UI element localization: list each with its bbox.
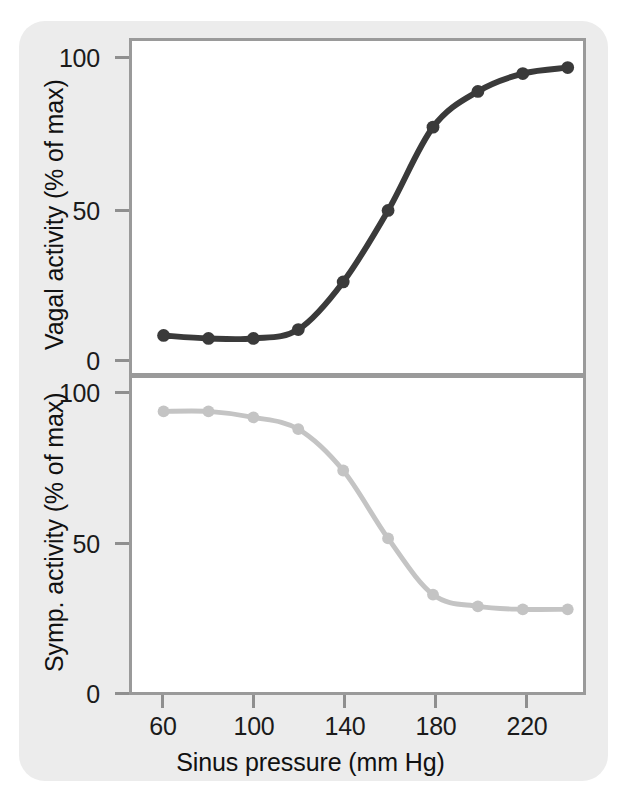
- ytick-dash-vagal-50: [115, 209, 129, 212]
- y-axis-label-symp: Symp. activity (% of max): [40, 393, 69, 673]
- data-point-marker: [337, 465, 349, 477]
- xtick-label-140: 140: [305, 712, 385, 741]
- data-point-marker: [516, 67, 529, 80]
- data-point-marker: [561, 61, 574, 74]
- xtick-label-220: 220: [487, 712, 567, 741]
- ytick-dash-symp-100: [115, 391, 129, 394]
- xtick-mark-60: [161, 695, 164, 708]
- data-point-marker: [247, 332, 260, 345]
- data-point-marker: [203, 406, 215, 418]
- data-point-marker: [382, 204, 395, 217]
- xtick-mark-140: [343, 695, 346, 708]
- ytick-dash-symp-50: [115, 542, 129, 545]
- data-point-marker: [337, 276, 350, 289]
- ytick-label-vagal-0: 0: [10, 347, 100, 376]
- data-point-marker: [427, 121, 440, 134]
- data-point-marker: [517, 603, 529, 615]
- ytick-dash-symp-0: [115, 692, 129, 695]
- vagal-activity-series-svg: [132, 41, 583, 373]
- xtick-mark-220: [525, 695, 528, 708]
- xtick-label-100: 100: [214, 712, 294, 741]
- sympathetic-activity-plot-panel: [129, 375, 586, 695]
- ytick-label-vagal-100: 100: [10, 44, 100, 73]
- data-point-marker: [292, 323, 305, 336]
- series-line: [164, 68, 568, 340]
- ytick-label-symp-0: 0: [10, 680, 100, 709]
- ytick-dash-vagal-100: [115, 56, 129, 59]
- data-point-marker: [382, 533, 394, 545]
- y-axis-label-vagal: Vagal activity (% of max): [40, 79, 69, 350]
- data-point-marker: [472, 600, 484, 612]
- data-point-marker: [471, 85, 484, 98]
- xtick-mark-180: [434, 695, 437, 708]
- ytick-dash-vagal-0: [115, 359, 129, 362]
- vagal-activity-plot-panel: [129, 38, 586, 376]
- sympathetic-activity-series-svg: [132, 378, 583, 692]
- data-point-marker: [158, 406, 170, 418]
- xtick-label-60: 60: [123, 712, 203, 741]
- x-axis-label: Sinus pressure (mm Hg): [0, 748, 621, 777]
- data-point-marker: [157, 329, 170, 342]
- data-point-marker: [247, 411, 259, 423]
- data-point-marker: [292, 423, 304, 435]
- xtick-label-180: 180: [396, 712, 476, 741]
- xtick-mark-100: [252, 695, 255, 708]
- series-line: [164, 411, 568, 610]
- data-point-marker: [562, 603, 574, 615]
- data-point-marker: [427, 589, 439, 601]
- data-point-marker: [202, 332, 215, 345]
